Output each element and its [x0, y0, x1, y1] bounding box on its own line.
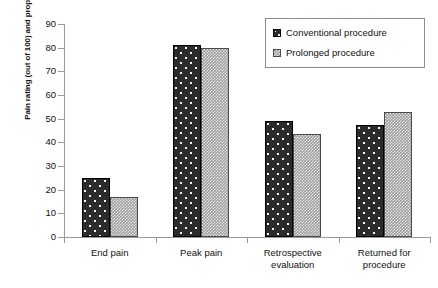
x-axis-category-label-line: Retrospective	[247, 247, 339, 259]
y-axis-title: Pain rating (out of 100) and proportion …	[23, 0, 32, 134]
bar-group	[64, 24, 156, 237]
bar-conventional	[82, 178, 110, 237]
chart-legend: Conventional procedure Prolonged procedu…	[265, 18, 425, 68]
x-axis-category-label: Retrospectiveevaluation	[247, 247, 339, 270]
legend-swatch-prolonged-icon	[273, 49, 281, 57]
x-axis-category-label-line: End pain	[64, 247, 156, 259]
y-axis-tick-label: 20	[22, 185, 56, 195]
x-axis-category-label-line: evaluation	[247, 259, 339, 271]
bar-chart: Pain rating (out of 100) and proportion …	[0, 0, 438, 288]
bar-prolonged	[293, 134, 321, 237]
x-axis-category-label-line: procedure	[339, 259, 431, 271]
category-separator-tick	[430, 237, 431, 243]
y-axis-tick-label: 0	[22, 232, 56, 242]
y-axis-tick-label: 30	[22, 161, 56, 171]
bar-conventional	[173, 45, 201, 237]
y-axis-tick-label: 10	[22, 209, 56, 219]
bar-conventional	[356, 125, 384, 237]
bar-group	[156, 24, 248, 237]
x-axis-category-label: Returned forprocedure	[339, 247, 431, 270]
legend-item-conventional: Conventional procedure	[273, 24, 417, 41]
legend-swatch-conventional-icon	[273, 29, 281, 37]
y-axis-tick-label: 40	[22, 138, 56, 148]
bar-prolonged	[201, 48, 229, 237]
legend-item-prolonged: Prolonged procedure	[273, 44, 417, 61]
x-axis-category-label-line: Returned for	[339, 247, 431, 259]
legend-label-prolonged: Prolonged procedure	[286, 48, 375, 58]
bar-prolonged	[384, 112, 412, 237]
x-axis-category-label: End pain	[64, 247, 156, 259]
x-axis-category-label-line: Peak pain	[156, 247, 248, 259]
category-separator-tick	[339, 237, 340, 243]
category-separator-tick	[64, 237, 65, 243]
legend-label-conventional: Conventional procedure	[286, 28, 387, 38]
bar-prolonged	[110, 197, 138, 237]
bar-conventional	[265, 121, 293, 237]
category-separator-tick	[247, 237, 248, 243]
category-separator-tick	[156, 237, 157, 243]
x-axis-category-label: Peak pain	[156, 247, 248, 259]
